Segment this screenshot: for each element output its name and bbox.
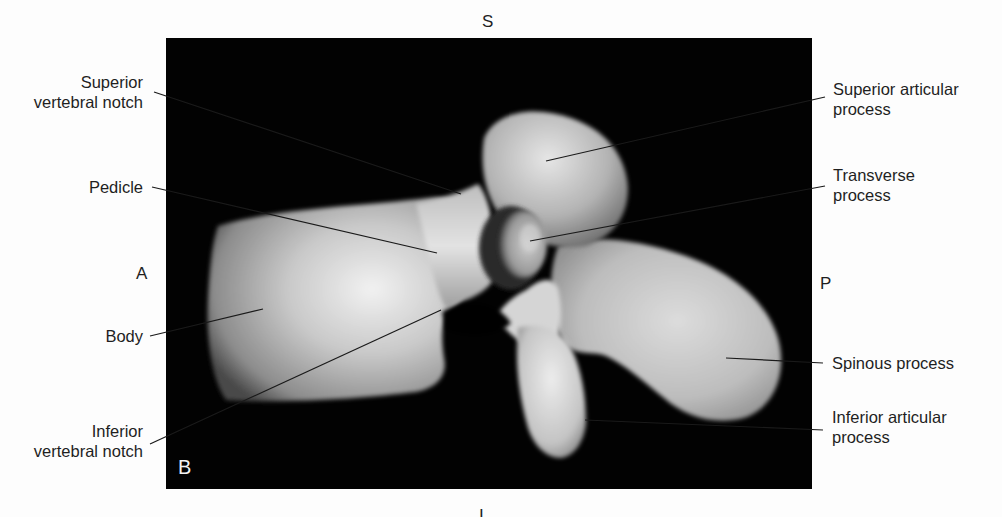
label-line: Superior <box>34 72 143 92</box>
label-transverse-process: Transverse process <box>833 165 915 205</box>
label-superior-vertebral-notch: Superior vertebral notch <box>34 72 143 112</box>
label-line: Inferior articular <box>832 407 947 427</box>
label-inferior-articular-process: Inferior articular process <box>832 407 947 447</box>
label-line: process <box>833 99 959 119</box>
label-inferior-vertebral-notch: Inferior vertebral notch <box>34 421 143 461</box>
label-line: Spinous process <box>832 353 954 373</box>
label-body: Body <box>105 326 143 346</box>
label-line: Inferior <box>34 421 143 441</box>
transverse-process-shape <box>479 206 547 290</box>
label-line: Transverse <box>833 165 915 185</box>
spinous-process-shape <box>551 239 781 421</box>
label-line: process <box>832 427 947 447</box>
orientation-inferior: I <box>479 506 484 517</box>
label-superior-articular-process: Superior articular process <box>833 79 959 119</box>
label-line: vertebral notch <box>34 441 143 461</box>
orientation-anterior: A <box>136 264 147 284</box>
anatomy-figure: S I A P <box>0 0 1002 517</box>
label-spinous-process: Spinous process <box>832 353 954 373</box>
label-line: Body <box>105 326 143 346</box>
label-line: Pedicle <box>89 177 143 197</box>
label-pedicle: Pedicle <box>89 177 143 197</box>
label-line: vertebral notch <box>34 92 143 112</box>
orientation-posterior: P <box>820 274 831 294</box>
label-line: process <box>833 185 915 205</box>
orientation-superior: S <box>482 12 493 32</box>
label-line: Superior articular <box>833 79 959 99</box>
vertebra-illustration <box>166 38 812 489</box>
vertebra-image-panel: B <box>166 38 812 489</box>
panel-letter: B <box>178 456 191 478</box>
